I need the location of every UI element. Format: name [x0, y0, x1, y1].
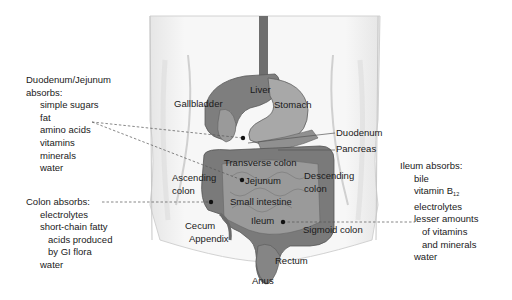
- list-item: electrolytes: [26, 209, 112, 222]
- list-item: vitamin B12: [400, 185, 478, 201]
- duodenum-dot: [241, 136, 245, 140]
- label-sigmoid-colon: Sigmoid colon: [303, 224, 363, 237]
- list-item: bile: [400, 173, 478, 186]
- list-item: of vitamins: [400, 226, 478, 239]
- list-item: minerals: [26, 150, 111, 163]
- label-anus: Anus: [252, 275, 274, 288]
- label-descending-colon-2: colon: [304, 183, 327, 196]
- ileum-dot: [281, 220, 285, 224]
- jejunum-dot: [240, 178, 244, 182]
- ileum-absorption-list: Ileum absorbs: bile vitamin B12 electrol…: [400, 160, 478, 264]
- list-item: electrolytes: [400, 201, 478, 214]
- list-item: and minerals: [400, 239, 478, 252]
- duodenum-jejunum-title: Duodenum/Jejunum: [26, 74, 111, 87]
- list-item: amino acids: [26, 124, 111, 137]
- list-item: by GI flora: [26, 246, 112, 259]
- vitamin-b-label: vitamin B: [414, 185, 453, 196]
- duodenum-jejunum-absorption-list: Duodenum/Jejunum absorbs: simple sugars …: [26, 74, 111, 175]
- list-item: water: [26, 162, 111, 175]
- label-cecum: Cecum: [185, 220, 215, 233]
- label-rectum: Rectum: [275, 255, 308, 268]
- ileum-title: Ileum absorbs:: [400, 160, 478, 173]
- label-appendix: Appendix: [189, 233, 229, 246]
- list-item: water: [26, 259, 112, 272]
- label-stomach: Stomach: [274, 99, 312, 112]
- list-item: short-chain fatty: [26, 221, 112, 234]
- colon-absorption-list: Colon absorbs: electrolytes short-chain …: [26, 196, 112, 272]
- list-item: water: [400, 251, 478, 264]
- label-ileum: Ileum: [251, 215, 274, 228]
- list-item: simple sugars: [26, 99, 111, 112]
- label-ascending-colon-1: Ascending: [172, 172, 216, 185]
- label-ascending-colon-2: colon: [172, 185, 195, 198]
- colon-title: Colon absorbs:: [26, 196, 112, 209]
- label-duodenum: Duodenum: [336, 127, 382, 140]
- list-item: acids produced: [26, 234, 112, 247]
- list-item: lesser amounts: [400, 213, 478, 226]
- label-descending-colon-1: Descending: [304, 170, 354, 183]
- label-liver: Liver: [250, 84, 271, 97]
- list-item: fat: [26, 112, 111, 125]
- vitamin-b-subscript: 12: [453, 191, 459, 197]
- label-transverse-colon: Transverse colon: [224, 157, 297, 170]
- duodenum-jejunum-title-2: absorbs:: [26, 87, 111, 100]
- list-item: vitamins: [26, 137, 111, 150]
- label-small-intestine: Small intestine: [230, 196, 292, 209]
- label-pancreas: Pancreas: [336, 143, 376, 156]
- label-jejunum: Jejunum: [245, 175, 281, 188]
- colon-dot: [209, 200, 213, 204]
- esophagus: [259, 16, 268, 78]
- label-gallbladder: Gallbladder: [174, 98, 223, 111]
